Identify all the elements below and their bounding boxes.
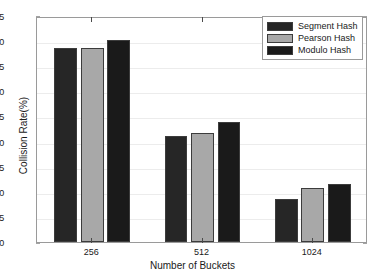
y-tick-label: 35 — [0, 62, 4, 72]
x-tick-mark — [91, 238, 92, 243]
x-tick-mark — [312, 238, 313, 243]
y-tick-label: 45 — [0, 12, 4, 22]
bar — [191, 133, 214, 242]
y-tick-label: 10 — [0, 188, 4, 198]
bar — [218, 122, 241, 242]
y-tick-label: 25 — [0, 112, 4, 122]
y-tick-label: 0 — [0, 238, 4, 248]
bar — [81, 48, 104, 242]
bar — [275, 199, 298, 242]
x-tick-label: 1024 — [282, 247, 342, 257]
y-tick-label: 20 — [0, 138, 4, 148]
legend-swatch-segment-hash — [267, 22, 293, 31]
x-axis-label: Number of Buckets — [0, 260, 385, 271]
legend-box: Segment Hash Pearson Hash Modulo Hash — [262, 16, 363, 60]
x-tick-mark — [91, 17, 92, 22]
legend-item[interactable]: Pearson Hash — [267, 32, 358, 44]
x-tick-mark — [202, 238, 203, 243]
legend-swatch-modulo-hash — [267, 46, 293, 55]
x-tick-label: 256 — [61, 247, 121, 257]
bar — [328, 184, 351, 242]
y-tick-label: 40 — [0, 37, 4, 47]
bar — [107, 40, 130, 242]
legend-label: Pearson Hash — [298, 33, 355, 43]
y-axis-label: Collision Rate(%) — [18, 66, 29, 206]
x-tick-mark — [202, 17, 203, 22]
y-tick-label: 15 — [0, 163, 4, 173]
bar — [54, 48, 77, 242]
bar — [301, 188, 324, 242]
y-tick-label: 30 — [0, 87, 4, 97]
legend-label: Modulo Hash — [298, 45, 351, 55]
y-tick-label: 5 — [0, 213, 4, 223]
x-tick-label: 512 — [172, 247, 232, 257]
figure-canvas: Collision Rate(%) 051015202530354045 256… — [0, 0, 385, 279]
legend-item[interactable]: Modulo Hash — [267, 44, 358, 56]
bar — [165, 136, 188, 242]
legend-swatch-pearson-hash — [267, 34, 293, 43]
legend-label: Segment Hash — [298, 21, 358, 31]
legend-item[interactable]: Segment Hash — [267, 20, 358, 32]
